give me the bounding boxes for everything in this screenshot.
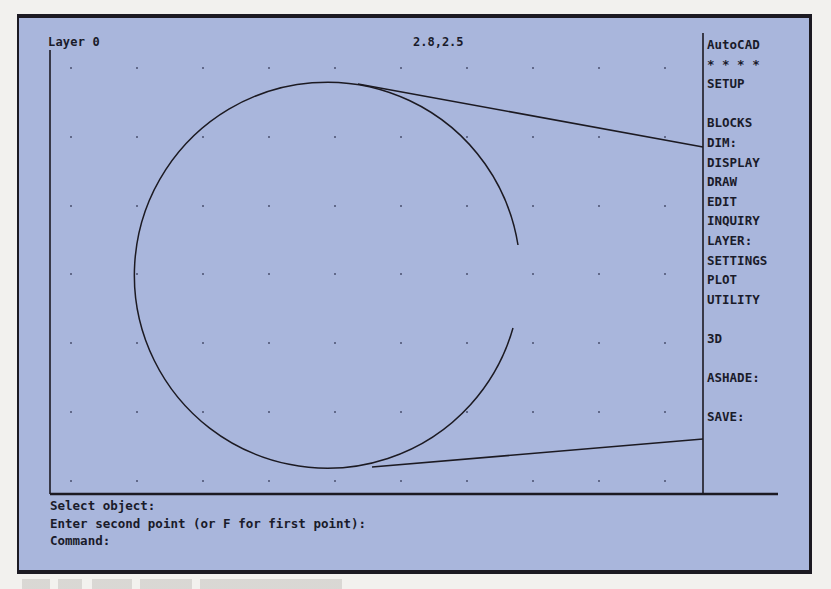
command-area[interactable]: Select object: Enter second point (or F … bbox=[50, 497, 366, 550]
grid-dot bbox=[598, 342, 600, 344]
grid-dot bbox=[334, 67, 336, 69]
grid-dot bbox=[664, 342, 666, 344]
grid-dot bbox=[598, 273, 600, 275]
menu-spacer bbox=[707, 388, 807, 408]
grid-dot bbox=[532, 67, 534, 69]
layer-indicator: Layer 0 bbox=[48, 35, 100, 49]
grid-dot bbox=[136, 273, 138, 275]
grid-dot bbox=[400, 411, 402, 413]
grid-dot bbox=[70, 205, 72, 207]
grid-dot bbox=[532, 205, 534, 207]
grid-dot bbox=[136, 342, 138, 344]
grid-dot bbox=[334, 342, 336, 344]
screen-menu: AutoCAD * * * * SETUP BLOCKS DIM: DISPLA… bbox=[707, 35, 807, 427]
menu-spacer bbox=[707, 349, 807, 369]
menu-spacer bbox=[707, 94, 807, 114]
grid-dot bbox=[664, 136, 666, 138]
grid-dot bbox=[400, 205, 402, 207]
grid-dot bbox=[334, 136, 336, 138]
grid-dot bbox=[202, 480, 204, 482]
grid-dot bbox=[334, 480, 336, 482]
grid-dots bbox=[70, 67, 666, 482]
grid-dot bbox=[268, 67, 270, 69]
menu-item-inquiry[interactable]: INQUIRY bbox=[707, 211, 807, 231]
grid-dot bbox=[70, 67, 72, 69]
grid-dot bbox=[466, 411, 468, 413]
grid-dot bbox=[268, 411, 270, 413]
grid-dot bbox=[70, 342, 72, 344]
menu-item-utility[interactable]: UTILITY bbox=[707, 290, 807, 310]
grid-dot bbox=[598, 136, 600, 138]
menu-item-dim[interactable]: DIM: bbox=[707, 133, 807, 153]
command-history-line: Select object: bbox=[50, 497, 366, 515]
menu-spacer bbox=[707, 309, 807, 329]
grid-dot bbox=[268, 273, 270, 275]
grid-dot bbox=[466, 342, 468, 344]
grid-dot bbox=[268, 480, 270, 482]
grid-dot bbox=[136, 205, 138, 207]
menu-item-setup[interactable]: SETUP bbox=[707, 74, 807, 94]
grid-dot bbox=[202, 273, 204, 275]
grid-dot bbox=[70, 480, 72, 482]
grid-dot bbox=[532, 411, 534, 413]
grid-dot bbox=[598, 205, 600, 207]
menu-item-autocad[interactable]: AutoCAD bbox=[707, 35, 807, 55]
command-history-line: Enter second point (or F for first point… bbox=[50, 515, 366, 533]
tangent-line[interactable] bbox=[358, 84, 703, 147]
grid-dot bbox=[268, 136, 270, 138]
menu-item-draw[interactable]: DRAW bbox=[707, 172, 807, 192]
grid-dot bbox=[202, 411, 204, 413]
grid-dot bbox=[532, 273, 534, 275]
menu-item-settings[interactable]: SETTINGS bbox=[707, 251, 807, 271]
grid-dot bbox=[664, 273, 666, 275]
grid-dot bbox=[136, 480, 138, 482]
menu-item-ashade[interactable]: ASHADE: bbox=[707, 368, 807, 388]
grid-dot bbox=[70, 273, 72, 275]
menu-item-asterisks[interactable]: * * * * bbox=[707, 55, 807, 75]
grid-dot bbox=[664, 205, 666, 207]
menu-item-3d[interactable]: 3D bbox=[707, 329, 807, 349]
cropped-caption bbox=[22, 579, 422, 589]
grid-dot bbox=[598, 67, 600, 69]
grid-dot bbox=[466, 136, 468, 138]
command-prompt[interactable]: Command: bbox=[50, 532, 366, 550]
grid-dot bbox=[532, 342, 534, 344]
menu-item-blocks[interactable]: BLOCKS bbox=[707, 113, 807, 133]
grid-dot bbox=[532, 136, 534, 138]
menu-item-edit[interactable]: EDIT bbox=[707, 192, 807, 212]
grid-dot bbox=[664, 411, 666, 413]
menu-item-save[interactable]: SAVE: bbox=[707, 407, 807, 427]
grid-dot bbox=[202, 205, 204, 207]
grid-dot bbox=[598, 411, 600, 413]
grid-dot bbox=[466, 273, 468, 275]
circle-arc[interactable] bbox=[134, 82, 518, 468]
grid-dot bbox=[400, 342, 402, 344]
grid-dot bbox=[400, 480, 402, 482]
grid-dot bbox=[532, 480, 534, 482]
grid-dot bbox=[268, 205, 270, 207]
grid-dot bbox=[664, 67, 666, 69]
grid-dot bbox=[400, 67, 402, 69]
grid-dot bbox=[334, 273, 336, 275]
grid-dot bbox=[202, 342, 204, 344]
grid-dot bbox=[466, 480, 468, 482]
grid-dot bbox=[136, 136, 138, 138]
grid-dot bbox=[334, 205, 336, 207]
grid-dot bbox=[400, 136, 402, 138]
tangent-lines[interactable] bbox=[358, 84, 703, 467]
grid-dot bbox=[202, 67, 204, 69]
grid-dot bbox=[202, 136, 204, 138]
grid-dot bbox=[466, 67, 468, 69]
grid-dot bbox=[664, 480, 666, 482]
menu-item-layer[interactable]: LAYER: bbox=[707, 231, 807, 251]
grid-dot bbox=[70, 136, 72, 138]
grid-dot bbox=[136, 67, 138, 69]
grid-dot bbox=[136, 411, 138, 413]
menu-item-display[interactable]: DISPLAY bbox=[707, 153, 807, 173]
coordinate-display: 2.8,2.5 bbox=[413, 35, 464, 49]
grid-dot bbox=[400, 273, 402, 275]
menu-item-plot[interactable]: PLOT bbox=[707, 270, 807, 290]
grid-dot bbox=[268, 342, 270, 344]
grid-dot bbox=[466, 205, 468, 207]
grid-dot bbox=[334, 411, 336, 413]
